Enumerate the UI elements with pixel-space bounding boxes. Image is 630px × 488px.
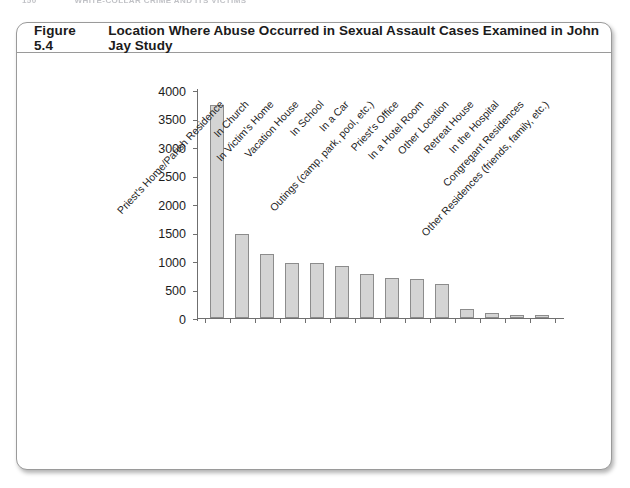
bar	[385, 278, 399, 318]
x-axis-tick	[305, 319, 306, 323]
y-axis-tick: 1500	[193, 234, 197, 235]
y-axis-tick: 2500	[193, 177, 197, 178]
x-axis-tick	[330, 319, 331, 323]
y-axis-tick: 0	[193, 319, 197, 320]
y-axis-tick-label: 1000	[158, 256, 186, 270]
x-axis-tick	[555, 319, 556, 323]
x-axis-tick	[530, 319, 531, 323]
figure-title: Location Where Abuse Occurred in Sexual …	[108, 23, 611, 53]
x-axis-tick	[280, 319, 281, 323]
bar-chart-plot: 05001000150020002500300035004000 Priest'…	[197, 91, 562, 319]
x-axis-tick	[405, 319, 406, 323]
x-axis-tick	[355, 319, 356, 323]
chart-area: 05001000150020002500300035004000 Priest'…	[17, 54, 611, 469]
bar	[260, 254, 274, 318]
figure-panel: Figure 5.4 Location Where Abuse Occurred…	[16, 22, 612, 470]
x-axis-tick	[430, 319, 431, 323]
bar	[360, 274, 374, 318]
y-axis-tick-label: 0	[179, 313, 186, 327]
x-axis-tick	[205, 319, 206, 323]
bar	[410, 279, 424, 318]
bar	[510, 315, 524, 318]
y-axis-tick: 1000	[193, 262, 197, 263]
x-axis-tick	[230, 319, 231, 323]
y-axis-tick: 3000	[193, 148, 197, 149]
y-axis-tick: 2000	[193, 205, 197, 206]
page-folio: 150	[22, 0, 37, 5]
bar	[460, 309, 474, 318]
running-head: 150WHITE-COLLAR CRIME AND ITS VICTIMS	[22, 0, 442, 5]
x-axis-tick	[455, 319, 456, 323]
bar	[310, 263, 324, 318]
x-axis-tick	[255, 319, 256, 323]
bar	[435, 284, 449, 318]
y-axis-tick-label: 4000	[158, 85, 186, 99]
y-axis-tick: 4000	[193, 91, 197, 92]
y-axis-tick-label: 2000	[158, 199, 186, 213]
figure-header: Figure 5.4 Location Where Abuse Occurred…	[17, 23, 611, 53]
x-axis-tick	[380, 319, 381, 323]
y-axis-tick-label: 1500	[158, 227, 186, 241]
figure-number: Figure 5.4	[34, 23, 92, 53]
y-axis-tick-label: 500	[165, 284, 186, 298]
x-axis-tick	[480, 319, 481, 323]
y-axis-tick-label: 3500	[158, 113, 186, 127]
bar	[485, 313, 499, 318]
running-head-text: WHITE-COLLAR CRIME AND ITS VICTIMS	[75, 0, 247, 5]
x-axis-line	[197, 318, 564, 319]
page-canvas: 150WHITE-COLLAR CRIME AND ITS VICTIMS Fi…	[0, 0, 630, 488]
y-axis-tick: 500	[193, 291, 197, 292]
bar	[335, 266, 349, 318]
x-axis-tick	[505, 319, 506, 323]
bar	[535, 315, 549, 318]
bar	[285, 263, 299, 318]
bar	[235, 234, 249, 318]
